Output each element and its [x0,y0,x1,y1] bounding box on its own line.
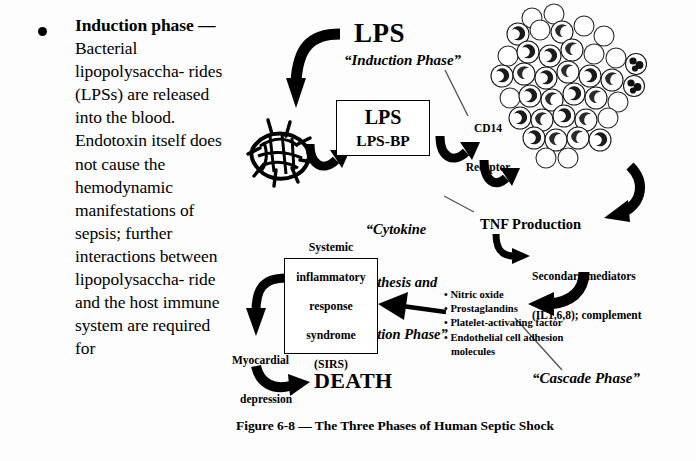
paragraph-heading: Induction phase — [75,15,215,35]
body-paragraph: Induction phase — Bacterial lipopolysacc… [75,14,225,360]
diagram-vector-layer [232,0,696,461]
arrow-lps-to-capillary [286,34,340,108]
mediator-bullet-list: • Nitric oxide • Prostaglandins • Platel… [444,288,563,359]
label-induction-phase: “Induction Phase” [344,52,461,69]
arrow-tnf-to-mediators [496,234,530,264]
sirs-box: Systemic inflammatory response syndrome … [284,258,378,354]
arrow-cells-to-tnf [604,166,640,222]
figure-diagram: LPS “Induction Phase” LPS LPS-BP CD14 Re… [232,0,696,461]
lps-box-line2: LPS-BP [337,132,429,150]
figure-caption: Figure 6-8 — The Three Phases of Human S… [236,418,554,434]
bullet-marker-icon [38,27,47,36]
sirs-box-text: Systemic inflammatory response syndrome … [296,240,365,371]
capillary-bed-icon [248,120,314,186]
label-myocardial-depression: Myocardial depression [232,328,292,432]
paragraph-lines: Bacterial lipopolysaccha- rides (LPSs) a… [75,38,222,358]
list-item: • Endothelial cell adhesion [444,331,563,345]
label-death: DEATH [314,368,393,394]
lps-box-line1: LPS [337,106,429,129]
list-item: • Platelet-activating factor [444,316,563,330]
label-cd14-receptor: CD14 Receptor [460,96,516,200]
list-item: • Prostaglandins [444,302,563,316]
page-canvas: Induction phase — Bacterial lipopolysacc… [0,0,696,461]
label-cascade-phase: “Cascade Phase” [532,370,640,387]
text-column: Induction phase — Bacterial lipopolysacc… [0,0,232,461]
list-item-continuation: molecules [444,345,563,359]
label-tnf-production: TNF Production [480,216,581,233]
lps-binding-protein-box: LPS LPS-BP [336,100,430,156]
diagram-title-lps: LPS [354,18,405,49]
list-item: • Nitric oxide [444,288,563,302]
